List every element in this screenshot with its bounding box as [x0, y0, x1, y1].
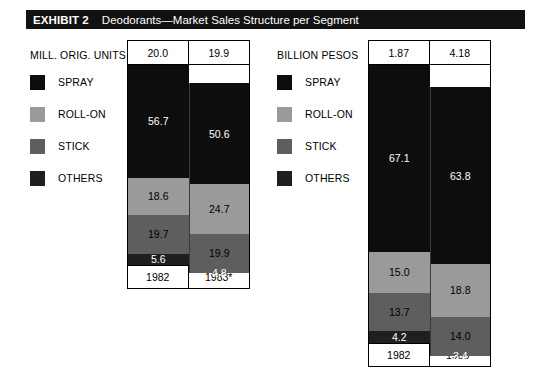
segment-roll-on-1983: 24.7 — [189, 184, 250, 233]
segment-roll-on-1982: 18.6 — [128, 178, 189, 215]
totals-row-pesos: 1.87 4.18 — [369, 41, 490, 65]
legend-item-spray: SPRAY — [30, 66, 126, 98]
legend-title-pesos: BILLION PESOS — [277, 44, 358, 66]
page-title: Deodorants—Market Sales Structure per Se… — [89, 14, 359, 26]
segment-roll-on-1982: 15.0 — [369, 252, 430, 294]
legend-title-units: MILL. ORIG. UNITS — [30, 44, 126, 66]
segment-others-1982: 5.6 — [128, 254, 189, 265]
legend-pesos: BILLION PESOS SPRAY ROLL-ON STICK OTHERS — [277, 44, 358, 194]
swatch-spray-icon — [277, 75, 292, 90]
bar-column-1983: 50.6 24.7 19.9 4.8 — [189, 83, 250, 283]
segment-spray-1982: 67.1 — [369, 65, 430, 252]
swatch-roll-on-icon — [277, 107, 292, 122]
legend-item-spray: SPRAY — [277, 66, 358, 98]
segment-stick-1982: 19.7 — [128, 215, 189, 254]
legend-label-spray: SPRAY — [45, 76, 94, 88]
exhibit-number-label: EXHIBIT 2 — [26, 14, 89, 26]
legend-label-stick: STICK — [45, 140, 90, 152]
segment-roll-on-1983: 18.8 — [430, 264, 491, 316]
swatch-roll-on-icon — [30, 107, 45, 122]
segment-others-1982: 4.2 — [369, 331, 430, 343]
swatch-spray-icon — [30, 75, 45, 90]
total-value-1982: 20.0 — [128, 41, 189, 64]
segment-spray-1983: 50.6 — [189, 83, 250, 184]
stacked-bars-pesos: 67.1 15.0 13.7 4.2 63.8 18.8 14.0 3.4 — [369, 65, 490, 343]
swatch-stick-icon — [30, 139, 45, 154]
year-label-1982: 1982 — [128, 266, 189, 288]
total-value-1982: 1.87 — [369, 41, 430, 64]
legend-item-others: OTHERS — [277, 162, 358, 194]
legend-item-roll-on: ROLL-ON — [277, 98, 358, 130]
stacked-bars-units: 56.7 18.6 19.7 5.6 50.6 24.7 19.9 4.8 — [128, 65, 249, 265]
exhibit-title-bar: EXHIBIT 2 Deodorants—Market Sales Struct… — [26, 10, 525, 29]
legend-item-stick: STICK — [30, 130, 126, 162]
legend-label-stick: STICK — [292, 140, 337, 152]
legend-units: MILL. ORIG. UNITS SPRAY ROLL-ON STICK OT… — [30, 44, 126, 194]
total-value-1983: 19.9 — [189, 41, 250, 64]
total-value-1983: 4.18 — [430, 41, 491, 64]
segment-spray-1982: 56.7 — [128, 65, 189, 178]
bar-column-1982: 67.1 15.0 13.7 4.2 — [369, 65, 430, 343]
swatch-others-icon — [277, 171, 292, 186]
swatch-others-icon — [30, 171, 45, 186]
segment-spray-1983: 63.8 — [430, 87, 491, 264]
legend-item-roll-on: ROLL-ON — [30, 98, 126, 130]
year-label-1982: 1982 — [369, 344, 430, 366]
legend-label-others: OTHERS — [292, 172, 350, 184]
totals-row-units: 20.0 19.9 — [128, 41, 249, 65]
bar-column-1982: 56.7 18.6 19.7 5.6 — [128, 65, 189, 265]
legend-label-spray: SPRAY — [292, 76, 341, 88]
chart-mill-orig-units: 20.0 19.9 56.7 18.6 19.7 5.6 50.6 24.7 1… — [127, 40, 250, 289]
legend-item-stick: STICK — [277, 130, 358, 162]
chart-billion-pesos: 1.87 4.18 67.1 15.0 13.7 4.2 63.8 18.8 1… — [368, 40, 491, 367]
bar-column-1983: 63.8 18.8 14.0 3.4 — [430, 87, 491, 365]
segment-stick-1982: 13.7 — [369, 293, 430, 331]
swatch-stick-icon — [277, 139, 292, 154]
legend-item-others: OTHERS — [30, 162, 126, 194]
legend-label-roll-on: ROLL-ON — [292, 108, 353, 120]
legend-label-others: OTHERS — [45, 172, 103, 184]
legend-label-roll-on: ROLL-ON — [45, 108, 106, 120]
